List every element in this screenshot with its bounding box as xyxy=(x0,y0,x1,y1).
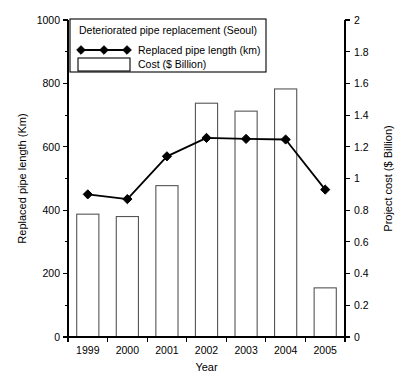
x-ticklabel-2005: 2005 xyxy=(314,344,338,356)
legend-title: Deteriorated pipe replacement (Seoul) xyxy=(79,24,257,36)
x-ticklabel-2002: 2002 xyxy=(195,344,219,356)
x-ticklabel-2004: 2004 xyxy=(274,344,298,356)
left-ticklabel-200: 200 xyxy=(42,267,60,279)
bar-2001 xyxy=(156,186,178,337)
right-ticklabel-2: 2 xyxy=(354,14,360,26)
right-ticklabel-0.4: 0.4 xyxy=(354,267,369,279)
right-ticklabel-1: 1 xyxy=(354,172,360,184)
right-ticklabel-0.6: 0.6 xyxy=(354,236,369,248)
x-ticklabel-1999: 1999 xyxy=(76,344,100,356)
left-ticklabel-800: 800 xyxy=(42,77,60,89)
right-ticklabel-0: 0 xyxy=(354,331,360,343)
legend-label-replaced-pipe-length: Replaced pipe length (km) xyxy=(138,44,261,56)
x-ticklabel-2003: 2003 xyxy=(234,344,258,356)
x-axis-title: Year xyxy=(195,361,218,373)
right-ticklabel-1.2: 1.2 xyxy=(354,141,369,153)
right-ticklabel-1.4: 1.4 xyxy=(354,109,369,121)
left-ticklabel-1000: 1000 xyxy=(37,14,61,26)
right-ticklabel-0.2: 0.2 xyxy=(354,299,369,311)
bar-1999 xyxy=(77,214,99,337)
x-ticklabel-2001: 2001 xyxy=(155,344,179,356)
pipe-replacement-chart: 0200400600800100000.20.40.60.811.21.41.6… xyxy=(0,0,410,387)
right-ticklabel-1.8: 1.8 xyxy=(354,46,369,58)
legend-swatch-cost xyxy=(78,58,130,71)
right-ticklabel-1.6: 1.6 xyxy=(354,77,369,89)
y-axis-title: Replaced pipe length (Km) xyxy=(16,113,28,243)
left-ticklabel-400: 400 xyxy=(42,204,60,216)
bar-2000 xyxy=(116,217,138,337)
legend-label-cost: Cost ($ Billion) xyxy=(138,58,206,70)
bar-2004 xyxy=(275,89,297,337)
bar-2003 xyxy=(235,111,257,337)
left-ticklabel-0: 0 xyxy=(54,331,60,343)
bar-2005 xyxy=(314,288,336,337)
left-ticklabel-600: 600 xyxy=(42,141,60,153)
marker-1999 xyxy=(83,190,92,199)
x-ticklabel-2000: 2000 xyxy=(116,344,140,356)
y2-axis-title: Project cost ($ Billion) xyxy=(382,125,394,231)
chart-container: 0200400600800100000.20.40.60.811.21.41.6… xyxy=(0,0,410,387)
right-ticklabel-0.8: 0.8 xyxy=(354,204,369,216)
